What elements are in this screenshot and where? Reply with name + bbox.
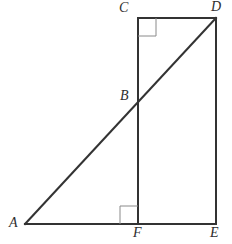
geometry-canvas <box>0 0 232 244</box>
vertex-label-F: F <box>133 226 142 240</box>
vertex-label-D: D <box>211 0 221 14</box>
segment-AD <box>25 18 216 224</box>
right-angle-marker-F <box>120 206 138 224</box>
vertex-label-B: B <box>120 89 129 103</box>
geometry-figure: A B C D E F <box>0 0 232 244</box>
right-angle-marker-C <box>138 18 156 36</box>
vertex-label-A: A <box>9 216 18 230</box>
vertex-label-C: C <box>119 1 128 15</box>
vertex-label-E: E <box>210 226 219 240</box>
